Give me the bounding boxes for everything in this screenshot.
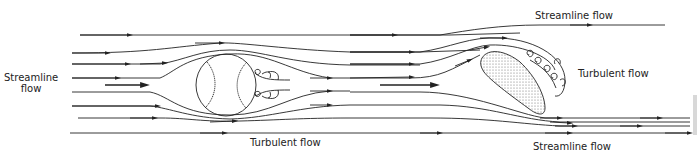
baseball [196, 54, 256, 116]
label-ball-turbulent: Turbulent flow [250, 137, 321, 148]
label-line: flow [4, 83, 58, 94]
label-left-streamline: Streamline flow [4, 72, 58, 94]
label-airfoil-turbulent: Turbulent flow [578, 68, 649, 79]
ball-wake-eddies [255, 69, 290, 98]
label-bottom-streamline: Streamline flow [533, 141, 611, 152]
label-line: Streamline [4, 72, 58, 83]
label-top-streamline: Streamline flow [535, 10, 613, 21]
page-edge [693, 95, 697, 135]
